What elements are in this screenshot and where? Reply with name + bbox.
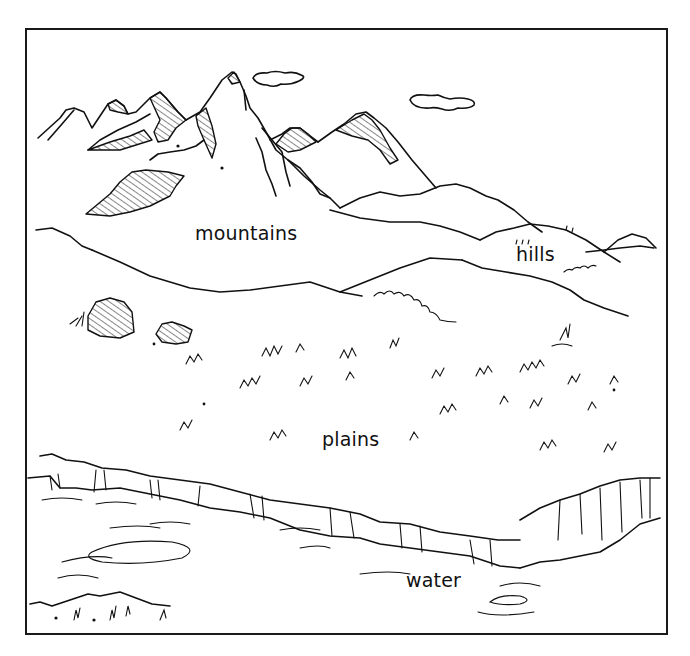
- cloud-icon: [253, 72, 304, 87]
- landforms-drawing: [0, 0, 690, 656]
- mountain-range-right: [270, 112, 436, 198]
- label-water: water: [406, 571, 461, 590]
- hills: [330, 184, 656, 316]
- label-hills: hills: [516, 245, 555, 264]
- grass-tufts: [153, 324, 618, 452]
- mountain-range-far: [38, 92, 186, 150]
- foreground-bank: [30, 592, 170, 622]
- label-plains: plains: [322, 430, 379, 449]
- cliff-bank: [28, 454, 660, 568]
- cloud-icon: [410, 95, 474, 110]
- label-mountains: mountains: [195, 224, 297, 243]
- water-ripples: [42, 498, 540, 615]
- boulders: [70, 298, 192, 344]
